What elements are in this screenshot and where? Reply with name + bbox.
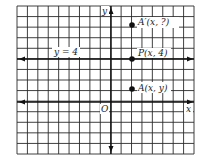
line-right-arrow-icon — [187, 57, 193, 62]
point-a: A(x, y) — [129, 82, 171, 93]
point-dot-icon — [129, 56, 135, 62]
origin-label: O — [101, 104, 109, 114]
point-label: P(x, 4) — [137, 48, 168, 58]
point-dot-icon — [129, 22, 135, 28]
x-axis-label: x — [186, 104, 191, 114]
line-left-arrow-icon — [19, 57, 25, 62]
line-label: y = 4 — [53, 47, 78, 57]
grid — [17, 6, 194, 154]
y-axis-up-arrow-icon — [109, 8, 114, 14]
point-label: A(x, y) — [137, 83, 168, 93]
point-label: A′(x, ?) — [137, 17, 170, 27]
coordinate-diagram: y = 4 y x O A′(x, ?) P(x, 4) A(x, y) — [0, 0, 203, 161]
y-axis-label: y — [101, 6, 108, 16]
point-a-prime: A′(x, ?) — [129, 17, 179, 28]
point-p: P(x, 4) — [129, 48, 171, 62]
y-axis-down-arrow-icon — [109, 146, 114, 152]
point-dot-icon — [129, 86, 135, 92]
x-axis-left-arrow-icon — [19, 100, 25, 105]
